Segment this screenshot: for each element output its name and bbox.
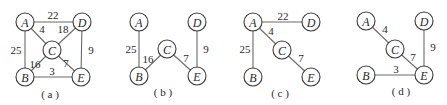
edge-weight-label: 4 — [268, 25, 274, 37]
node-label: B — [249, 71, 257, 85]
edge-weight-label: 16 — [30, 58, 42, 70]
node-label: A — [20, 16, 29, 30]
node-label: E — [419, 69, 428, 83]
node-c: C — [158, 40, 176, 58]
node-d: D — [73, 13, 91, 31]
edge-weight-label: 22 — [278, 10, 289, 22]
edge-weight-label: 3 — [49, 65, 55, 77]
panel-d: 4973ADCBE( d ) — [357, 12, 436, 98]
node-a: A — [357, 12, 375, 30]
panel-caption: ( c ) — [271, 87, 289, 100]
edge-weight-label: 3 — [393, 63, 399, 75]
node-b: B — [244, 68, 262, 86]
edge-weight-label: 7 — [183, 52, 189, 64]
node-d: D — [415, 12, 433, 30]
panel-caption: ( b ) — [154, 86, 173, 99]
node-label: C — [163, 43, 172, 57]
node-a: A — [130, 13, 148, 31]
node-c: C — [273, 41, 291, 59]
node-label: B — [135, 70, 143, 84]
edge-weight-label: 25 — [11, 44, 23, 56]
node-b: B — [130, 67, 148, 85]
node-label: C — [48, 44, 57, 58]
node-label: A — [134, 16, 143, 30]
node-c: C — [386, 40, 404, 58]
node-a: A — [244, 13, 262, 31]
edge-weight-label: 16 — [143, 53, 155, 65]
node-e: E — [415, 66, 433, 84]
node-label: D — [306, 16, 316, 30]
node-b: B — [16, 68, 34, 86]
edge-weight-label: 4 — [382, 23, 388, 35]
edge-weight-label: 7 — [63, 57, 69, 69]
graph-figure: 224182591673ADCBE( a )259167ADCBE( b )22… — [0, 0, 447, 105]
edge-weight-label: 9 — [88, 44, 94, 56]
node-label: B — [21, 71, 29, 85]
node-c: C — [43, 41, 61, 59]
node-d: D — [302, 13, 320, 31]
node-label: D — [419, 15, 429, 29]
edge-weight-label: 18 — [58, 23, 70, 35]
edge-weight-label: 25 — [240, 43, 252, 55]
edge-weight-label: 9 — [203, 43, 209, 55]
node-label: A — [361, 15, 370, 29]
node-e: E — [72, 68, 90, 86]
edge-weight-label: 9 — [430, 41, 436, 53]
panel-caption: ( a ) — [41, 88, 59, 101]
edge-weight-label: 25 — [126, 43, 138, 55]
node-b: B — [357, 66, 375, 84]
node-label: B — [362, 69, 370, 83]
panel-c: 224257ADCBE( c ) — [240, 10, 321, 100]
node-label: A — [248, 16, 257, 30]
node-label: D — [192, 16, 202, 30]
edge-weight-label: 7 — [298, 52, 304, 64]
node-label: C — [278, 44, 287, 58]
node-a: A — [16, 13, 34, 31]
edge-weight-label: 7 — [410, 51, 416, 63]
node-label: D — [77, 16, 87, 30]
node-label: C — [391, 43, 400, 57]
node-label: E — [306, 71, 315, 85]
node-d: D — [188, 13, 206, 31]
node-label: E — [76, 71, 85, 85]
node-e: E — [302, 68, 320, 86]
edge-weight-label: 4 — [39, 23, 45, 35]
panel-b: 259167ADCBE( b ) — [126, 13, 210, 99]
node-e: E — [188, 67, 206, 85]
panel-caption: ( d ) — [392, 85, 411, 98]
edge-weight-label: 22 — [48, 9, 59, 21]
panel-a: 224182591673ADCBE( a ) — [11, 9, 95, 101]
node-label: E — [192, 70, 201, 84]
